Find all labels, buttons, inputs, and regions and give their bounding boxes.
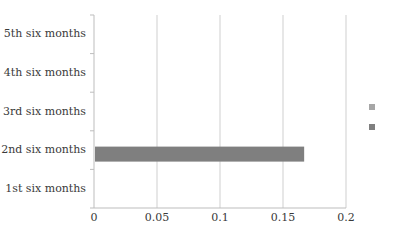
bar-chart: 1st six months2nd six months3rd six mont… — [0, 0, 393, 237]
bar — [95, 147, 304, 162]
category-label: 1st six months — [5, 182, 86, 195]
x-tick-label: 0.05 — [145, 211, 170, 224]
legend-marker — [369, 124, 375, 130]
category-label: 5th six months — [4, 27, 86, 40]
category-label: 2nd six months — [1, 143, 86, 156]
x-tick-label: 0.2 — [337, 211, 355, 224]
legend-marker — [369, 104, 375, 110]
x-tick-label: 0 — [91, 211, 98, 224]
x-tick-label: 0.1 — [211, 211, 229, 224]
category-label: 3rd six months — [3, 105, 86, 118]
category-label: 4th six months — [4, 66, 86, 79]
x-tick-label: 0.15 — [271, 211, 296, 224]
